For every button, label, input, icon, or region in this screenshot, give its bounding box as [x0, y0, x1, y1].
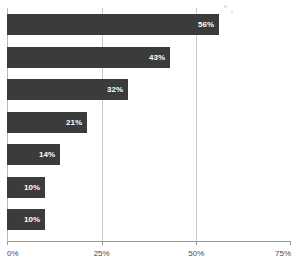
bar-value-label: 32%: [107, 86, 128, 94]
bar-row: 43%: [7, 47, 170, 68]
x-tick-label-0: 0%: [7, 250, 19, 258]
bar-row: 32%: [7, 79, 128, 100]
bar-row: 56%: [7, 14, 219, 35]
x-tick-label-50: 50%: [188, 250, 204, 258]
bar-row: 10%: [7, 209, 45, 230]
x-tick-label-25: 25%: [94, 250, 110, 258]
bar-value-label: 21%: [66, 119, 87, 127]
bar-chart: 56%43%32%21%14%10%10% 0%25%50%75%: [0, 0, 299, 265]
bar: 14%: [7, 144, 60, 165]
bar-value-label: 10%: [24, 216, 45, 224]
bar-row: 10%: [7, 177, 45, 198]
bar-value-label: 14%: [39, 151, 60, 159]
bar: 43%: [7, 47, 170, 68]
x-axis-line: [7, 241, 291, 242]
bar-value-label: 56%: [198, 21, 219, 29]
x-tick-label-75: 75%: [275, 250, 291, 258]
bar: 32%: [7, 79, 128, 100]
bar-series: 56%43%32%21%14%10%10%: [7, 8, 291, 241]
plot-area: 56%43%32%21%14%10%10%: [7, 8, 291, 241]
x-tick-75: [290, 241, 291, 245]
x-tick-50: [196, 241, 197, 245]
bar: 10%: [7, 177, 45, 198]
bar: 21%: [7, 112, 87, 133]
bar: 56%: [7, 14, 219, 35]
x-tick-0: [7, 241, 8, 245]
bar-row: 14%: [7, 144, 60, 165]
x-tick-25: [102, 241, 103, 245]
bar-value-label: 43%: [149, 54, 170, 62]
bar-value-label: 10%: [24, 184, 45, 192]
bar-row: 21%: [7, 112, 87, 133]
bar: 10%: [7, 209, 45, 230]
